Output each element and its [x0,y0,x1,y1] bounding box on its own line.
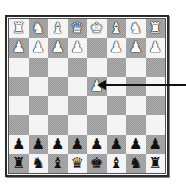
square-g5[interactable] [126,77,146,96]
square-e8[interactable]: ♚ [87,19,107,38]
square-g3[interactable] [126,115,146,134]
square-h6[interactable] [146,58,166,77]
square-e3[interactable] [87,115,107,134]
black-pawn-icon[interactable]: ♟ [149,137,162,152]
white-pawn-icon[interactable]: ♟ [32,40,45,55]
white-queen-icon[interactable]: ♛ [71,21,84,36]
white-bishop-icon[interactable]: ♝ [51,21,64,36]
square-d8[interactable]: ♛ [68,19,88,38]
square-d6[interactable] [68,58,88,77]
square-g7[interactable]: ♟ [126,38,146,57]
square-g1[interactable]: ♞ [126,154,146,173]
black-knight-icon[interactable]: ♞ [129,156,142,171]
white-pawn-icon[interactable]: ♟ [71,40,84,55]
square-f8[interactable]: ♝ [107,19,127,38]
black-knight-icon[interactable]: ♞ [32,156,45,171]
square-a6[interactable] [9,58,29,77]
white-knight-icon[interactable]: ♞ [32,21,45,36]
white-king-icon[interactable]: ♚ [90,21,103,36]
square-e4[interactable] [87,96,107,115]
white-pawn-icon[interactable]: ♟ [110,40,123,55]
square-c7[interactable]: ♟ [48,38,68,57]
chess-board: ♜♞♝♛♚♝♞♜♟♟♟♟♟♟♟♟♟♟♟♟♟♟♟♟♜♞♝♛♚♝♞♜ [8,18,166,174]
square-b2[interactable]: ♟ [29,135,49,154]
black-pawn-icon[interactable]: ♟ [51,137,64,152]
square-h3[interactable] [146,115,166,134]
square-f3[interactable] [107,115,127,134]
white-pawn-icon[interactable]: ♟ [12,40,25,55]
square-h1[interactable]: ♜ [146,154,166,173]
square-a1[interactable]: ♜ [9,154,29,173]
square-a3[interactable] [9,115,29,134]
square-d4[interactable] [68,96,88,115]
square-g2[interactable]: ♟ [126,135,146,154]
square-h4[interactable] [146,96,166,115]
square-a7[interactable]: ♟ [9,38,29,57]
square-b5[interactable] [29,77,49,96]
square-d7[interactable]: ♟ [68,38,88,57]
black-pawn-icon[interactable]: ♟ [110,137,123,152]
square-a4[interactable] [9,96,29,115]
black-pawn-icon[interactable]: ♟ [129,137,142,152]
square-h7[interactable]: ♟ [146,38,166,57]
square-b8[interactable]: ♞ [29,19,49,38]
chess-board-frame: ♜♞♝♛♚♝♞♜♟♟♟♟♟♟♟♟♟♟♟♟♟♟♟♟♜♞♝♛♚♝♞♜ [5,15,169,177]
square-g4[interactable] [126,96,146,115]
square-c8[interactable]: ♝ [48,19,68,38]
white-pawn-icon[interactable]: ♟ [129,40,142,55]
white-bishop-icon[interactable]: ♝ [110,21,123,36]
square-a8[interactable]: ♜ [9,19,29,38]
square-b1[interactable]: ♞ [29,154,49,173]
black-rook-icon[interactable]: ♜ [12,156,25,171]
black-queen-icon[interactable]: ♛ [71,156,84,171]
black-bishop-icon[interactable]: ♝ [51,156,64,171]
square-d3[interactable] [68,115,88,134]
square-d5[interactable] [68,77,88,96]
square-f4[interactable] [107,96,127,115]
white-pawn-icon[interactable]: ♟ [51,40,64,55]
square-g6[interactable] [126,58,146,77]
square-h5[interactable] [146,77,166,96]
square-f1[interactable]: ♝ [107,154,127,173]
square-c6[interactable] [48,58,68,77]
black-rook-icon[interactable]: ♜ [149,156,162,171]
black-pawn-icon[interactable]: ♟ [90,137,103,152]
white-knight-icon[interactable]: ♞ [129,21,142,36]
square-b6[interactable] [29,58,49,77]
square-e7[interactable] [87,38,107,57]
black-king-icon[interactable]: ♚ [90,156,103,171]
square-f2[interactable]: ♟ [107,135,127,154]
square-c2[interactable]: ♟ [48,135,68,154]
square-a2[interactable]: ♟ [9,135,29,154]
square-c4[interactable] [48,96,68,115]
square-h8[interactable]: ♜ [146,19,166,38]
black-pawn-icon[interactable]: ♟ [12,137,25,152]
square-h2[interactable]: ♟ [146,135,166,154]
arrow-head-icon [97,80,106,90]
white-rook-icon[interactable]: ♜ [12,21,25,36]
square-e1[interactable]: ♚ [87,154,107,173]
square-e2[interactable]: ♟ [87,135,107,154]
square-d1[interactable]: ♛ [68,154,88,173]
square-g8[interactable]: ♞ [126,19,146,38]
square-b7[interactable]: ♟ [29,38,49,57]
square-f6[interactable] [107,58,127,77]
square-f5[interactable] [107,77,127,96]
square-c3[interactable] [48,115,68,134]
annotation-arrow [104,84,186,86]
square-b3[interactable] [29,115,49,134]
white-rook-icon[interactable]: ♜ [149,21,162,36]
white-pawn-icon[interactable]: ♟ [149,40,162,55]
square-b4[interactable] [29,96,49,115]
black-pawn-icon[interactable]: ♟ [71,137,84,152]
square-a5[interactable] [9,77,29,96]
black-pawn-icon[interactable]: ♟ [32,137,45,152]
square-c5[interactable] [48,77,68,96]
square-f7[interactable]: ♟ [107,38,127,57]
square-c1[interactable]: ♝ [48,154,68,173]
black-bishop-icon[interactable]: ♝ [110,156,123,171]
square-d2[interactable]: ♟ [68,135,88,154]
square-e6[interactable] [87,58,107,77]
